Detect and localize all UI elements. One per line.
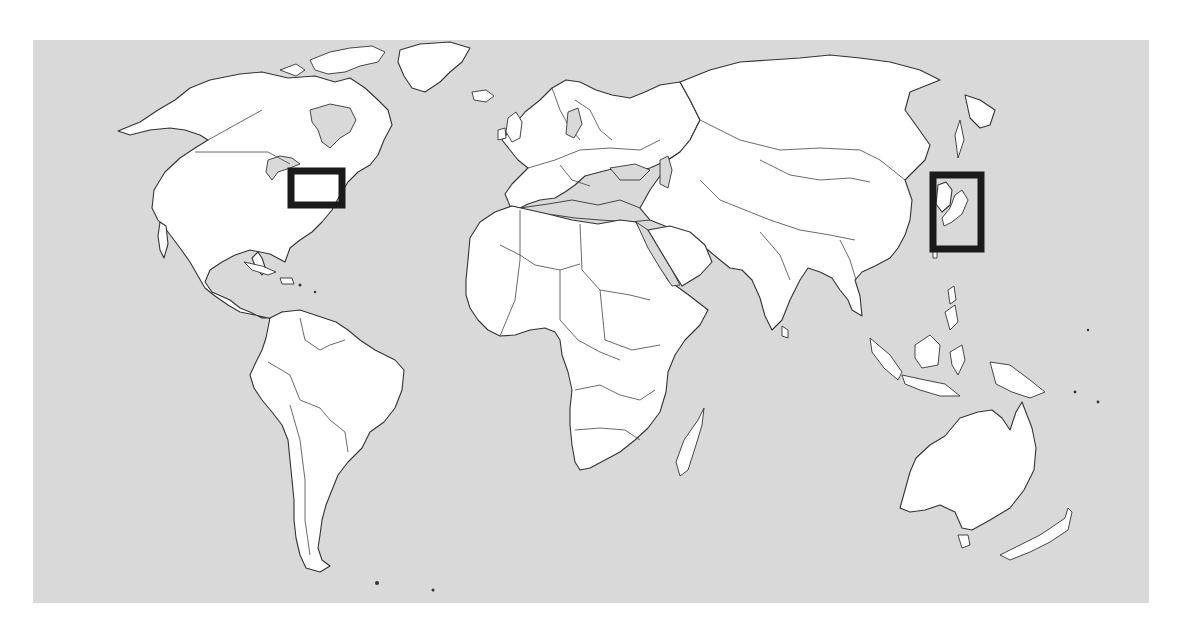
world-map bbox=[0, 0, 1180, 626]
world-map-svg bbox=[0, 0, 1180, 626]
